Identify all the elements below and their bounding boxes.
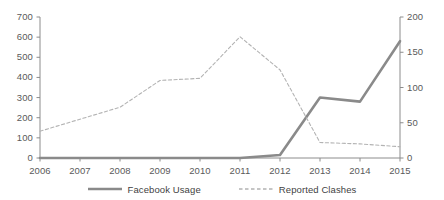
right-axis-tick-label: 150 bbox=[407, 47, 444, 57]
data-series-group bbox=[40, 37, 400, 158]
x-axis-tick-label: 2011 bbox=[218, 166, 262, 176]
left-axis-tick-label: 100 bbox=[0, 133, 33, 143]
legend-label-reported-clashes: Reported Clashes bbox=[279, 184, 357, 195]
left-axis-tick-label: 700 bbox=[0, 12, 33, 22]
x-axis-tick-label: 2008 bbox=[98, 166, 142, 176]
chart-container: 0100200300400500600700 050100150200 2006… bbox=[0, 0, 444, 200]
legend-item-facebook-usage[interactable]: Facebook Usage bbox=[88, 184, 201, 195]
x-axis-tick-label: 2015 bbox=[378, 166, 422, 176]
series-line-facebook-usage bbox=[40, 41, 400, 158]
x-axis-tick-label: 2013 bbox=[298, 166, 342, 176]
chart-legend: Facebook Usage Reported Clashes bbox=[0, 180, 444, 198]
legend-swatch-reported-clashes bbox=[239, 185, 273, 193]
left-axis-ticks bbox=[37, 17, 41, 158]
left-axis-tick-label: 200 bbox=[0, 113, 33, 123]
x-axis-tick-label: 2012 bbox=[258, 166, 302, 176]
left-axis-tick-label: 300 bbox=[0, 93, 33, 103]
legend-item-reported-clashes[interactable]: Reported Clashes bbox=[239, 184, 357, 195]
left-axis-tick-label: 400 bbox=[0, 72, 33, 82]
left-axis-tick-label: 600 bbox=[0, 32, 33, 42]
x-axis-tick-label: 2006 bbox=[18, 166, 62, 176]
left-axis-tick-label: 0 bbox=[0, 153, 33, 163]
legend-label-facebook-usage: Facebook Usage bbox=[128, 184, 201, 195]
x-axis-tick-label: 2009 bbox=[138, 166, 182, 176]
x-axis-tick-label: 2007 bbox=[58, 166, 102, 176]
left-axis-tick-label: 500 bbox=[0, 52, 33, 62]
x-axis-tick-label: 2010 bbox=[178, 166, 222, 176]
series-line-reported-clashes bbox=[40, 37, 400, 147]
axis-lines bbox=[40, 17, 400, 158]
right-axis-tick-label: 0 bbox=[407, 153, 444, 163]
right-axis-tick-label: 50 bbox=[407, 118, 444, 128]
legend-swatch-facebook-usage bbox=[88, 185, 122, 193]
right-axis-tick-label: 200 bbox=[407, 12, 444, 22]
x-axis-tick-label: 2014 bbox=[338, 166, 382, 176]
right-axis-tick-label: 100 bbox=[407, 83, 444, 93]
right-axis-ticks bbox=[400, 17, 404, 158]
